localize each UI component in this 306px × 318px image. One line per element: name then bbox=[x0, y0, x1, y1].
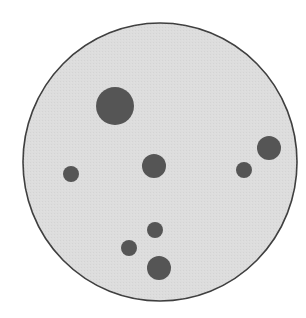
diagram-canvas bbox=[0, 0, 306, 318]
spot bbox=[142, 154, 166, 178]
petri-dish-diagram bbox=[0, 0, 306, 318]
spot bbox=[257, 136, 281, 160]
spot bbox=[147, 222, 163, 238]
spot bbox=[96, 87, 134, 125]
spot bbox=[147, 256, 171, 280]
spot bbox=[121, 240, 137, 256]
spot bbox=[236, 162, 252, 178]
spot bbox=[63, 166, 79, 182]
